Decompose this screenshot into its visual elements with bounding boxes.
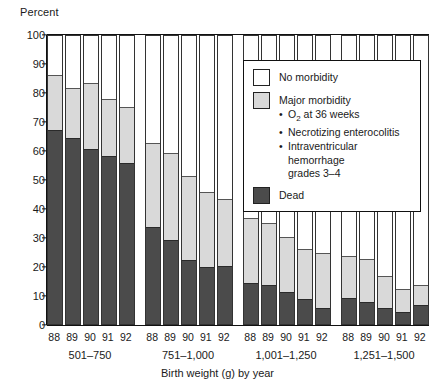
x-tick-label-90: 90 <box>376 331 392 343</box>
x-tick-label-89: 89 <box>358 331 374 343</box>
bar-segment-major-morbidity <box>146 143 160 227</box>
bar-segment-major-morbidity <box>316 253 330 308</box>
x-tick-label-91: 91 <box>198 331 214 343</box>
bar-segment-major-morbidity <box>200 192 214 267</box>
bar-segment-dead <box>360 302 374 324</box>
bar-segment-dead <box>120 163 134 324</box>
bar-segment-major-morbidity <box>262 223 276 285</box>
bar-7511000-91 <box>199 35 215 325</box>
bar-501750-89 <box>65 35 81 325</box>
bar-segment-major-morbidity <box>244 218 258 283</box>
x-group-label-4: 1,251–1,500 <box>328 349 435 361</box>
legend-label-dead: Dead <box>279 187 304 202</box>
x-group-label-3: 1,001–1,250 <box>230 349 342 361</box>
x-axis-line <box>47 325 429 327</box>
x-tick-label-92: 92 <box>216 331 232 343</box>
x-tick-label-88: 88 <box>144 331 160 343</box>
bar-segment-major-morbidity <box>84 83 98 148</box>
bar-segment-dead <box>182 260 196 324</box>
bar-segment-major-morbidity <box>48 75 62 130</box>
legend-swatch-major-morbidity <box>253 92 270 109</box>
x-tick-label-91: 91 <box>100 331 116 343</box>
bar-segment-dead <box>396 312 410 324</box>
y-tick-label-70: 70 <box>1 116 45 128</box>
chart-legend: No morbidity Major morbidity O2 at 36 we… <box>243 60 421 212</box>
bar-segment-major-morbidity <box>66 88 80 139</box>
bar-segment-major-morbidity <box>218 199 232 266</box>
y-tick-label-30: 30 <box>1 232 45 244</box>
bar-segment-major-morbidity <box>164 153 178 240</box>
x-tick-label-90: 90 <box>278 331 294 343</box>
bar-segment-dead <box>84 149 98 324</box>
legend-bullet-ivh-line1: Intraventricular hemorrhage <box>288 140 357 165</box>
legend-bullet-ivh: Intraventricular hemorrhagegrades 3–4 <box>279 140 412 180</box>
bar-segment-dead <box>66 138 80 324</box>
x-tick-label-91: 91 <box>394 331 410 343</box>
x-tick-label-89: 89 <box>162 331 178 343</box>
bar-7511000-92 <box>217 35 233 325</box>
x-year-labels-group-1: 8889909192 <box>46 331 134 343</box>
bar-segment-major-morbidity <box>342 256 356 298</box>
x-tick-label-88: 88 <box>46 331 62 343</box>
x-tick-label-91: 91 <box>296 331 312 343</box>
legend-swatch-no-morbidity <box>253 69 270 86</box>
y-tick-label-80: 80 <box>1 87 45 99</box>
bar-group-2 <box>145 35 233 325</box>
legend-bullet-list: O2 at 36 weeks Necrotizing enterocolitis… <box>279 108 412 180</box>
legend-label-no-morbidity: No morbidity <box>279 69 338 84</box>
bar-segment-dead <box>102 156 116 324</box>
x-axis-title: Birth weight (g) by year <box>0 367 435 379</box>
bar-segment-dead <box>316 308 330 324</box>
x-tick-label-90: 90 <box>82 331 98 343</box>
bar-segment-dead <box>164 240 178 324</box>
bar-segment-dead <box>48 130 62 324</box>
x-tick-label-92: 92 <box>314 331 330 343</box>
bar-segment-dead <box>262 285 276 324</box>
bar-segment-dead <box>218 266 232 324</box>
bar-501750-91 <box>101 35 117 325</box>
stacked-bar-chart: Percent 0102030405060708090100 888990919… <box>0 0 435 389</box>
x-tick-label-92: 92 <box>118 331 134 343</box>
y-axis-title: Percent <box>20 6 59 18</box>
bar-segment-dead <box>244 283 258 324</box>
y-tick-label-20: 20 <box>1 261 45 273</box>
bar-group-1 <box>47 35 135 325</box>
bar-segment-major-morbidity <box>182 176 196 260</box>
bar-segment-dead <box>200 267 214 324</box>
legend-item-no-morbidity: No morbidity <box>253 69 412 86</box>
bar-segment-dead <box>280 292 294 324</box>
y-tick-label-40: 40 <box>1 203 45 215</box>
bar-7511000-89 <box>163 35 179 325</box>
bar-segment-dead <box>146 227 160 324</box>
x-year-labels-group-2: 8889909192 <box>144 331 232 343</box>
y-tick-label-90: 90 <box>1 58 45 70</box>
bar-segment-major-morbidity <box>396 289 410 312</box>
bar-segment-major-morbidity <box>378 276 392 308</box>
bar-501750-90 <box>83 35 99 325</box>
x-year-labels-group-3: 8889909192 <box>242 331 330 343</box>
x-group-label-1: 501–750 <box>34 349 146 361</box>
y-tick-label-0: 0 <box>1 319 45 331</box>
legend-bullet-o2-prefix: O <box>288 108 296 120</box>
bar-segment-major-morbidity <box>280 237 294 292</box>
bar-7511000-88 <box>145 35 161 325</box>
x-tick-label-92: 92 <box>412 331 428 343</box>
legend-bullet-o2-suffix: at 36 weeks <box>301 108 360 120</box>
legend-swatch-dead <box>253 187 270 204</box>
legend-label-major-morbidity: Major morbidity <box>279 94 351 106</box>
bar-501750-92 <box>119 35 135 325</box>
legend-item-dead: Dead <box>253 187 412 204</box>
x-tick-label-88: 88 <box>242 331 258 343</box>
bar-segment-dead <box>414 305 428 324</box>
x-tick-label-89: 89 <box>260 331 276 343</box>
legend-bullet-nec: Necrotizing enterocolitis <box>279 126 412 139</box>
legend-bullet-ivh-line2: grades 3–4 <box>288 167 341 179</box>
bar-segment-major-morbidity <box>414 285 428 305</box>
x-tick-label-88: 88 <box>340 331 356 343</box>
bar-segment-major-morbidity <box>102 99 116 156</box>
bar-segment-dead <box>378 308 392 324</box>
legend-item-major-morbidity: Major morbidity O2 at 36 weeks Necrotizi… <box>253 92 412 181</box>
x-year-labels-group-4: 8889909192 <box>340 331 428 343</box>
bar-segment-major-morbidity <box>360 259 374 303</box>
y-tick-label-10: 10 <box>1 290 45 302</box>
